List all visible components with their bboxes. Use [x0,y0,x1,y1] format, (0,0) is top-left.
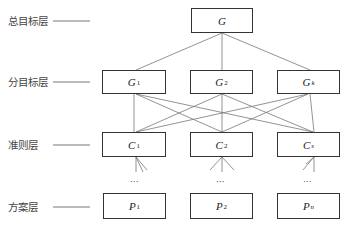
node-subscript: n [311,203,315,211]
ellipsis-1: ··· [130,178,139,186]
node-subscript: 1 [137,203,141,211]
node-symbol: P [216,200,223,212]
node-subgoal-gk: Gk [277,70,340,94]
node-criteria-c2: C2 [190,132,253,157]
node-goal-g: G [191,8,253,33]
node-symbol: P [303,200,310,212]
node-subgoal-g1: G1 [102,70,166,94]
layer-label-criteria: 准则层 [8,138,38,152]
node-alternative-p1: P1 [103,193,166,219]
node-symbol: G [128,76,136,88]
node-alternative-pn: Pn [277,193,340,219]
node-symbol: G [302,76,310,88]
node-criteria-cs: Cs [277,132,340,157]
layer-label-alternatives: 方案层 [8,200,38,214]
node-subgoal-g2: G2 [190,70,253,94]
node-symbol: C [216,139,223,151]
node-symbol: G [215,76,223,88]
layer-label-subgoal: 分目标层 [8,75,48,89]
node-alternative-p2: P2 [190,193,253,219]
node-subscript: 2 [224,142,228,150]
node-subscript: s [311,142,314,150]
node-symbol: G [218,15,226,27]
ellipsis-2: ··· [216,178,225,186]
layer-label-goal: 总目标层 [8,14,48,28]
ellipsis-3: ··· [303,178,312,186]
node-criteria-c1: C1 [102,132,166,157]
node-subscript: k [311,79,314,87]
node-subscript: 2 [224,203,228,211]
node-subscript: 1 [137,79,141,87]
node-subscript: 1 [136,142,140,150]
node-subscript: 2 [224,79,228,87]
ahp-hierarchy-diagram: 总目标层 分目标层 准则层 方案层 G G1 G2 Gk C1 C2 Cs ··… [0,0,349,230]
node-symbol: P [129,200,136,212]
node-symbol: C [303,139,310,151]
node-symbol: C [128,139,135,151]
